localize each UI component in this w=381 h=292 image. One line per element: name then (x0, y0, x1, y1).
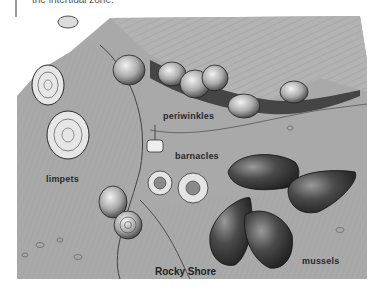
label-periwinkles: periwinkles (163, 111, 214, 121)
figure-title: Rocky Shore (155, 266, 216, 277)
label-mussels: mussels (302, 256, 339, 266)
label-limpets: limpets (46, 174, 79, 184)
limpet-shell (47, 111, 89, 159)
rocky-shore-illustration (0, 0, 381, 292)
limpet-shell (32, 65, 64, 105)
label-barnacles: barnacles (175, 151, 219, 161)
